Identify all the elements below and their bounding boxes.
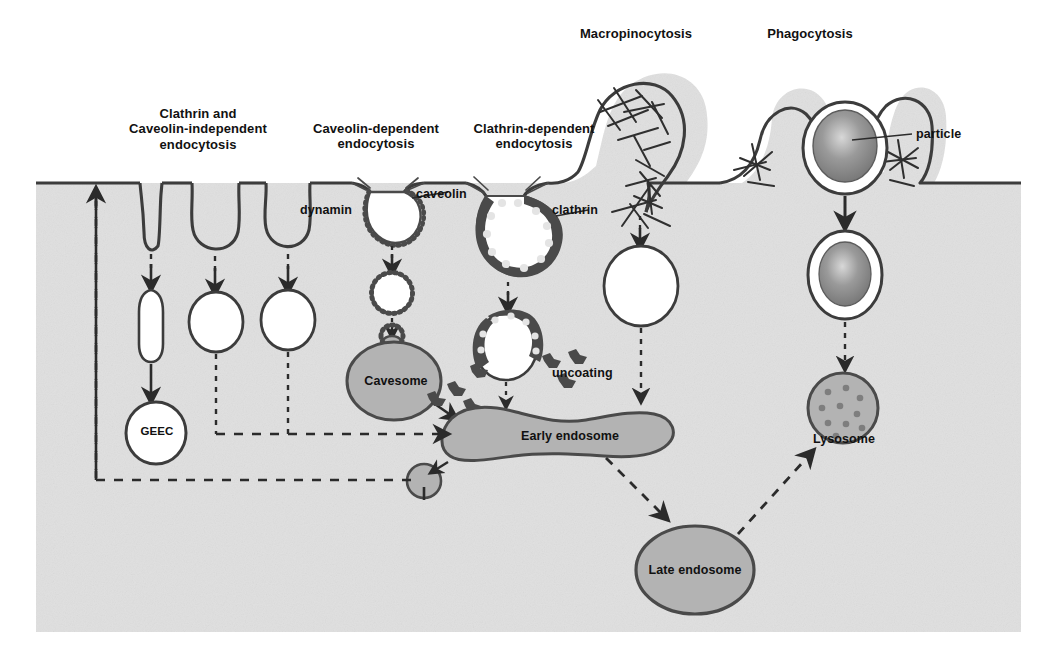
endocytosis-diagram: Clathrin and Caveolin-independent endocy…: [0, 0, 1052, 668]
organelle-label-early-endosome: Early endosome: [506, 429, 634, 444]
phagocytosis-particle-at-membrane: [803, 102, 887, 194]
organelle-label-geec: GEEC: [131, 425, 183, 439]
phagosome: [808, 231, 882, 319]
component-label-caveolin: caveolin: [416, 187, 492, 202]
component-label-uncoating: uncoating: [552, 366, 642, 381]
component-label-clathrin: clathrin: [552, 203, 622, 218]
pathway-label-clathrin-caveolin-independent: Clathrin and Caveolin-independent endocy…: [98, 106, 298, 152]
organelle-label-lysosome: Lysosome: [798, 432, 890, 447]
pathway-label-clathrin-dependent: Clathrin-dependent endocytosis: [450, 121, 618, 152]
component-label-particle: particle: [916, 127, 986, 142]
component-label-dynamin: dynamin: [300, 203, 380, 218]
caveolin-coated-vesicle: [372, 273, 413, 314]
pathway-label-caveolin-dependent: Caveolin-dependent endocytosis: [292, 121, 460, 152]
diagram-canvas: [0, 0, 1052, 668]
organelle-label-late-endosome: Late endosome: [632, 563, 758, 578]
organelle-label-cavesome: Cavesome: [350, 374, 442, 389]
pathway-label-phagocytosis: Phagocytosis: [730, 26, 890, 41]
pathway-label-macropinocytosis: Macropinocytosis: [556, 26, 716, 41]
